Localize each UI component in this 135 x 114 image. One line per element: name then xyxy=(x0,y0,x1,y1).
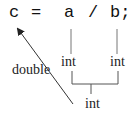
label-int-result: int xyxy=(85,97,100,111)
label-int-a: int xyxy=(61,55,76,69)
label-double: double xyxy=(12,63,50,77)
label-int-b: int xyxy=(110,55,125,69)
